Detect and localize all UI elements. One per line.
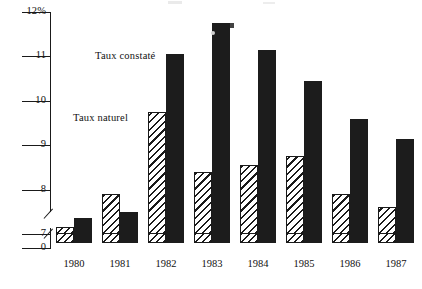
x-tick-label: 1980 — [51, 258, 97, 269]
bar-naturel — [286, 156, 304, 234]
x-tick-label: 1983 — [189, 258, 235, 269]
legend-label-constate: Taux constaté — [95, 50, 155, 61]
scan-artifact — [211, 31, 215, 35]
x-tick-label: 1984 — [235, 258, 281, 269]
y-tick-mark — [22, 101, 51, 102]
bar-constate — [212, 23, 230, 234]
bar-naturel — [148, 112, 166, 234]
plot-area — [52, 12, 416, 234]
y-tick-mark — [22, 12, 51, 13]
y-tick-mark — [22, 145, 51, 146]
scan-artifact — [168, 1, 182, 4]
legend-label-naturel: Taux naturel — [73, 112, 128, 123]
bar-naturel — [332, 194, 350, 234]
y-tick-mark-zero — [22, 248, 51, 249]
x-tick-label: 1982 — [143, 258, 189, 269]
bar-naturel — [378, 207, 396, 234]
x-tick-label: 1987 — [373, 258, 419, 269]
bar-constate — [396, 139, 414, 234]
x-tick-label: 1981 — [97, 258, 143, 269]
bar-constate — [304, 81, 322, 234]
x-tick-label: 1986 — [327, 258, 373, 269]
chart-figure: Taux constaté Taux naturel 12%11109870 1… — [0, 0, 422, 289]
bar-naturel — [240, 165, 258, 234]
bar-constate — [120, 212, 138, 234]
bar-constate — [74, 218, 92, 234]
x-tick-label: 1985 — [281, 258, 327, 269]
y-tick-mark — [22, 56, 51, 57]
bar-constate — [350, 119, 368, 234]
bar-naturel — [102, 194, 120, 234]
scan-artifact — [263, 2, 275, 4]
y-tick-mark — [22, 234, 51, 235]
bar-naturel — [56, 227, 74, 234]
bar-constate — [166, 54, 184, 234]
bar-constate — [258, 50, 276, 234]
y-tick-mark — [22, 190, 51, 191]
bar-naturel — [194, 172, 212, 234]
